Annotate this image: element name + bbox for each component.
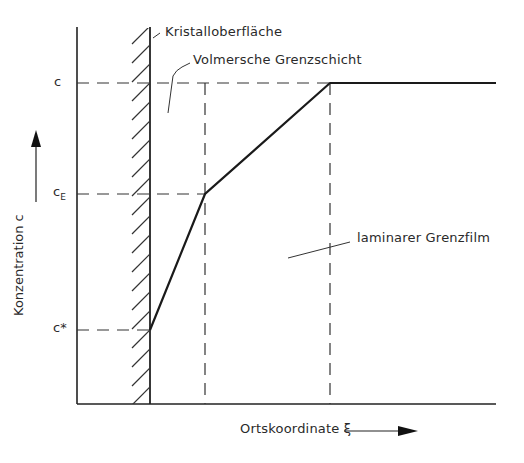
y-arrow-head-icon <box>31 130 41 147</box>
kristalloberflaeche-label: Kristalloberfläche <box>165 24 282 39</box>
tick-cE-sub: E <box>60 192 66 202</box>
kristall-leader <box>153 33 160 38</box>
volmersche-grenzschicht-label: Volmersche Grenzschicht <box>193 52 362 67</box>
tick-cstar: c* <box>53 320 67 335</box>
tick-c: c <box>54 74 61 89</box>
tick-cE: cE <box>53 184 66 199</box>
x-axis-label: Ortskoordinate ξ <box>240 421 351 436</box>
x-arrow-head-icon <box>398 426 418 436</box>
y-axis-label: Konzentration c <box>11 214 26 316</box>
laminarer-grenzfilm-label: laminarer Grenzfilm <box>357 230 490 245</box>
concentration-profile <box>150 83 496 330</box>
volmer-leader <box>168 63 190 113</box>
laminar-leader <box>288 242 350 258</box>
